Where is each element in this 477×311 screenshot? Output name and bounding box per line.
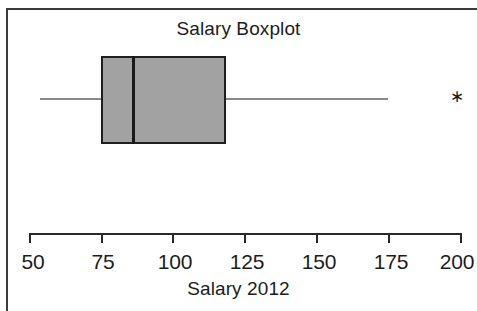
chart-title: Salary Boxplot (0, 18, 477, 40)
x-axis-label-125: 125 (230, 250, 264, 274)
x-axis-label-200: 200 (440, 250, 474, 274)
x-axis-label-50: 50 (22, 250, 45, 274)
median-line (132, 56, 135, 144)
x-axis-tick-200 (460, 233, 462, 243)
x-axis-tick-125 (244, 233, 246, 243)
x-axis-title: Salary 2012 (0, 278, 477, 300)
whisker-right (225, 98, 388, 100)
x-axis-tick-50 (29, 233, 31, 243)
interquartile-box (101, 56, 226, 144)
x-axis-label-75: 75 (92, 250, 115, 274)
x-axis-tick-75 (101, 233, 103, 243)
whisker-left (40, 98, 102, 100)
x-axis-tick-150 (316, 233, 318, 243)
x-axis-label-150: 150 (302, 250, 336, 274)
x-axis-label-100: 100 (158, 250, 192, 274)
plot-area: Salary Boxplot ∗ 50 75 100 125 150 175 2… (0, 0, 477, 311)
x-axis-tick-100 (172, 233, 174, 243)
x-axis-label-175: 175 (374, 250, 408, 274)
boxplot-figure: Salary Boxplot ∗ 50 75 100 125 150 175 2… (0, 0, 477, 311)
x-axis-tick-175 (388, 233, 390, 243)
outlier-marker: ∗ (450, 92, 464, 102)
